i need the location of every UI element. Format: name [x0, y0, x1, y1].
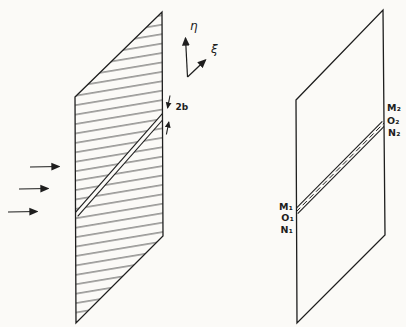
- dim-arrow-down-icon: [168, 96, 170, 109]
- flow-arrow-icon: [8, 212, 37, 213]
- flow-arrow-icon: [30, 167, 59, 168]
- coordinate-axes: η ξ: [186, 19, 219, 77]
- eta-axis-arrow-icon: [186, 38, 188, 77]
- lower-left-point-labels: M₁ O₁ N₁: [279, 201, 294, 235]
- label-O2: O₂: [387, 115, 400, 126]
- diagram-stage: η ξ 2b M₁ O₁ N₁ M₂ O: [0, 0, 406, 327]
- label-M2: M₂: [387, 102, 401, 113]
- right-figure: M₁ O₁ N₁ M₂ O₂ N₂: [279, 10, 401, 323]
- slit-width-dimension: 2b: [166, 96, 188, 135]
- eta-axis-label: η: [190, 19, 198, 33]
- slit-width-label: 2b: [176, 102, 189, 112]
- label-O1: O₁: [281, 212, 294, 223]
- left-figure: η ξ 2b: [8, 12, 218, 323]
- slotted-plates-diagram: η ξ 2b M₁ O₁ N₁ M₂ O: [0, 0, 406, 327]
- label-N2: N₂: [388, 127, 401, 138]
- xi-axis-arrow-icon: [188, 60, 206, 77]
- flow-arrow-icon: [19, 189, 48, 190]
- upper-right-point-labels: M₂ O₂ N₂: [387, 102, 401, 138]
- dim-arrow-up-icon: [166, 122, 168, 135]
- flow-arrows: [8, 167, 59, 213]
- label-N1: N₁: [280, 224, 293, 235]
- xi-axis-label: ξ: [210, 42, 218, 56]
- label-M1: M₁: [279, 201, 293, 212]
